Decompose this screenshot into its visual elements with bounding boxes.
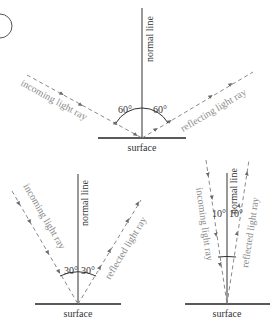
angle-in-label: 10°	[212, 208, 226, 219]
normal-line-label: normal line	[79, 180, 90, 226]
angle-arc	[218, 256, 236, 257]
reflection-diagrams: 60° 60° surface normal line incoming lig…	[0, 0, 274, 325]
angle-in-label: 30°	[64, 265, 78, 276]
angle-out-label: 60°	[153, 104, 167, 115]
cropped-circle-icon	[0, 14, 12, 38]
surface-label: surface	[64, 308, 93, 319]
surface-label: surface	[213, 308, 242, 319]
normal-line-label: normal line	[228, 168, 239, 214]
surface-label: surface	[128, 142, 157, 153]
incoming-ray-label: incoming light ray	[19, 77, 89, 122]
reflected-ray-label: reflecting light ray	[178, 86, 248, 133]
diagram-bottom-right: 10° 10° surface normal line incoming lig…	[185, 160, 270, 319]
diagram-top: 60° 60° surface normal line incoming lig…	[19, 8, 253, 153]
normal-line-label: normal line	[144, 16, 155, 62]
diagram-bottom-left: 30° 30° surface normal line incoming lig…	[12, 174, 149, 319]
incoming-ray-label: incoming light ray	[21, 181, 68, 250]
angle-in-label: 60°	[118, 104, 132, 115]
angle-out-label: 30°	[81, 265, 95, 276]
